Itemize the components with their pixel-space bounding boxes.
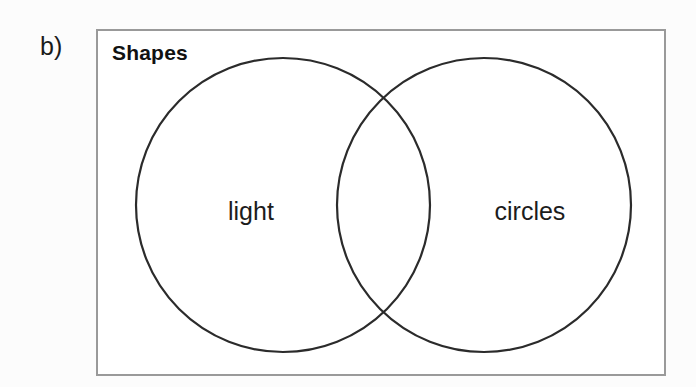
set-label-left: light (228, 199, 274, 224)
universe-set-title: Shapes (112, 41, 188, 65)
part-label: b) (40, 34, 62, 59)
universe-set-rectangle (96, 29, 666, 376)
figure-canvas: b) Shapes light circles (0, 0, 696, 387)
set-label-right: circles (495, 199, 566, 224)
